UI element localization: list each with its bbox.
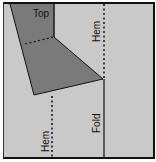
label-hem-lower: Hem bbox=[40, 131, 51, 152]
label-top: Top bbox=[33, 8, 50, 19]
label-hem-upper: Hem bbox=[91, 21, 102, 42]
label-fold: Fold bbox=[91, 114, 102, 133]
pattern-diagram: Top Hem Hem Fold bbox=[0, 0, 156, 162]
